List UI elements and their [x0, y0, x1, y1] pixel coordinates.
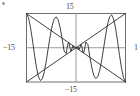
- oscillating-function-plot: 15 −15 −15 1: [0, 0, 140, 96]
- plot-canvas: [0, 0, 140, 96]
- y-axis-tick-label-top: 15: [66, 2, 74, 11]
- x-axis-tick-label-right: 1: [134, 43, 138, 52]
- x-axis-tick-label-left: −15: [3, 43, 15, 52]
- y-axis-tick-label-bottom: −15: [65, 85, 77, 94]
